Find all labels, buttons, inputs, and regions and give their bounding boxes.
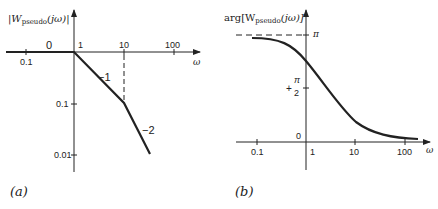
ylabel-a: |Wpseudo(jω)|	[8, 14, 70, 26]
slope-label-minus2: −2	[142, 125, 155, 136]
x-tick-a-0.1: 0.1	[20, 58, 33, 67]
phase-curve	[252, 38, 418, 139]
y-tick-a-0.01: 0.01	[54, 151, 72, 160]
panel-b-axes	[236, 10, 430, 170]
y-tick-b-half-pi-sign: +	[286, 84, 292, 94]
y-tick-b-pi: π	[313, 30, 319, 39]
x-tick-b-10: 10	[349, 148, 359, 157]
panel-a-axes	[6, 10, 200, 172]
ylabel-b: arg[Wpseudo(jω)]	[224, 13, 304, 25]
y-tick-b-zero: 0	[296, 132, 301, 141]
caption-b: (b)	[235, 185, 253, 198]
x-tick-a-1: 1	[78, 41, 83, 50]
x-tick-a-100: 100	[165, 41, 180, 50]
x-tick-b-0.1: 0.1	[251, 148, 264, 157]
y-tick-b-half-pi-den: 2	[294, 89, 299, 98]
x-tick-a-10: 10	[119, 41, 129, 50]
y-tick-a-0.1: 0.1	[56, 100, 69, 109]
slope-label-0: 0	[46, 40, 52, 51]
xlabel-b: ω	[426, 146, 433, 155]
slope-label-minus1: −1	[98, 72, 111, 83]
magnitude-asymptote	[6, 52, 150, 154]
x-tick-b-100: 100	[397, 148, 412, 157]
xlabel-a: ω	[193, 58, 200, 67]
caption-a: (a)	[10, 185, 28, 198]
x-tick-b-1: 1	[310, 148, 315, 157]
y-tick-b-half-pi-num: π	[294, 76, 300, 85]
